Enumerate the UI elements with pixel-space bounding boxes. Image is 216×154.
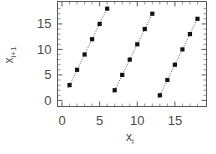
data-point	[195, 17, 199, 21]
data-point	[105, 7, 109, 11]
data-point	[67, 83, 71, 87]
return-map-scatter-plot: 051015 051015 xi xi+1	[0, 0, 216, 154]
x-axis-label-subscript: i	[132, 137, 134, 146]
data-point	[150, 12, 154, 16]
data-point	[98, 22, 102, 26]
data-point	[180, 47, 184, 51]
x-tick-label: 15	[168, 113, 182, 128]
data-point	[188, 32, 192, 36]
data-point	[158, 93, 162, 97]
data-point	[113, 88, 117, 92]
data-point	[173, 63, 177, 67]
data-point	[120, 73, 124, 77]
data-point	[143, 27, 147, 31]
data-point	[75, 68, 79, 72]
y-tick-label: 5	[44, 67, 51, 82]
y-axis-label-subscript: i+1	[9, 46, 18, 57]
data-point	[90, 37, 94, 41]
x-tick-label: 10	[130, 113, 144, 128]
chart-figure: 051015 051015 xi xi+1	[0, 0, 216, 154]
data-point	[128, 58, 132, 62]
chart-background	[0, 0, 216, 154]
x-tick-label: 0	[58, 113, 65, 128]
y-tick-label: 0	[44, 93, 51, 108]
y-tick-label: 15	[37, 16, 51, 31]
data-point	[165, 78, 169, 82]
data-point	[135, 42, 139, 46]
y-tick-label: 10	[37, 42, 51, 57]
x-tick-label: 5	[96, 113, 103, 128]
data-point	[82, 52, 86, 56]
